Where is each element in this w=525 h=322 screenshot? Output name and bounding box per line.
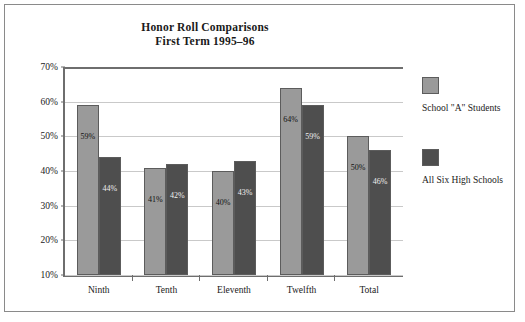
y-axis-label: 40%	[41, 166, 58, 176]
bar-value-label: 46%	[373, 177, 388, 186]
legend-entry-series-a: School "A" Students	[422, 77, 525, 113]
bar-eleventh-all-six[interactable]: 43%	[234, 161, 256, 275]
bar-group-total: 50%46%Total	[335, 67, 403, 275]
y-axis-label: 50%	[41, 131, 58, 141]
bars-layer: 59%44%Ninth41%42%Tenth40%43%Eleventh64%5…	[65, 67, 403, 275]
bar-value-label: 41%	[148, 195, 163, 204]
bar-value-label: 50%	[351, 163, 366, 172]
chart-subtitle: First Term 1995–96	[5, 35, 405, 49]
y-axis-label: 60%	[41, 97, 58, 107]
y-axis-label: 10%	[41, 270, 58, 280]
bar-tenth-school-a[interactable]: 41%	[144, 168, 166, 275]
bar-total-all-six[interactable]: 46%	[369, 150, 391, 275]
y-axis-label: 20%	[41, 235, 58, 245]
x-axis-label-twelfth: Twelfth	[287, 285, 316, 295]
bar-tenth-all-six[interactable]: 42%	[166, 164, 188, 275]
chart-frame: Honor Roll Comparisons First Term 1995–9…	[4, 4, 515, 312]
x-axis-tick	[199, 275, 200, 281]
x-axis-label-tenth: Tenth	[156, 285, 178, 295]
x-axis-tick	[334, 275, 335, 281]
bar-twelfth-school-a[interactable]: 64%	[280, 88, 302, 275]
bar-value-label: 64%	[283, 115, 298, 124]
bar-ninth-school-a[interactable]: 59%	[77, 105, 99, 275]
bar-value-label: 43%	[238, 188, 253, 197]
bar-value-label: 59%	[305, 132, 320, 141]
bar-value-label: 40%	[216, 198, 231, 207]
bar-group-twelfth: 64%59%Twelfth	[268, 67, 336, 275]
legend-entry-series-b: All Six High Schools	[422, 149, 525, 185]
bar-value-label: 59%	[80, 132, 95, 141]
x-axis-tick	[267, 275, 268, 281]
bar-eleventh-school-a[interactable]: 40%	[212, 171, 234, 275]
legend-swatch-all-six	[422, 149, 439, 166]
bar-total-school-a[interactable]: 50%	[347, 136, 369, 275]
y-axis-label: 30%	[41, 201, 58, 211]
bar-value-label: 42%	[170, 191, 185, 200]
bar-group-eleventh: 40%43%Eleventh	[200, 67, 268, 275]
legend-label-school-a: School "A" Students	[422, 103, 525, 113]
chart-legend: School "A" Students All Six High Schools	[422, 77, 525, 221]
legend-label-all-six: All Six High Schools	[422, 175, 525, 185]
x-axis-label-eleventh: Eleventh	[217, 285, 251, 295]
bar-group-tenth: 41%42%Tenth	[133, 67, 201, 275]
x-axis-label-ninth: Ninth	[88, 285, 110, 295]
chart-title: Honor Roll Comparisons	[5, 21, 405, 35]
bar-ninth-all-six[interactable]: 44%	[99, 157, 121, 275]
bar-value-label: 44%	[102, 184, 117, 193]
gridline	[65, 275, 403, 276]
bar-group-ninth: 59%44%Ninth	[65, 67, 133, 275]
x-axis-label-total: Total	[359, 285, 378, 295]
x-axis-tick	[132, 275, 133, 281]
legend-swatch-school-a	[422, 77, 439, 94]
chart-title-block: Honor Roll Comparisons First Term 1995–9…	[5, 21, 405, 48]
bar-twelfth-all-six[interactable]: 59%	[302, 105, 324, 275]
plot-area: 70%60%50%40%30%20%10% 59%44%Ninth41%42%T…	[63, 67, 403, 277]
y-axis-label: 70%	[41, 62, 58, 72]
